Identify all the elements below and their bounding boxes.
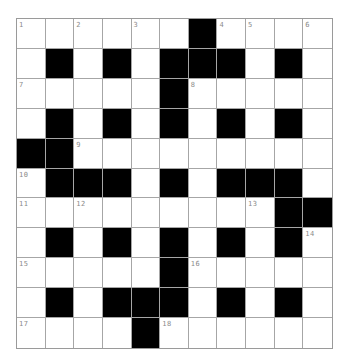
answer-cell[interactable] [103, 139, 132, 169]
answer-cell[interactable]: 2 [74, 19, 103, 49]
black-square [160, 169, 189, 199]
answer-cell[interactable] [103, 258, 132, 288]
answer-cell[interactable] [103, 19, 132, 49]
answer-cell[interactable] [246, 79, 275, 109]
answer-cell[interactable]: 7 [17, 79, 46, 109]
answer-cell[interactable]: 8 [189, 79, 218, 109]
answer-cell[interactable] [132, 139, 161, 169]
answer-cell[interactable] [246, 288, 275, 318]
answer-cell[interactable] [303, 109, 332, 139]
answer-cell[interactable] [46, 19, 75, 49]
answer-cell[interactable] [246, 139, 275, 169]
answer-cell[interactable] [132, 258, 161, 288]
answer-cell[interactable] [189, 139, 218, 169]
clue-number: 12 [76, 201, 85, 208]
answer-cell[interactable]: 14 [303, 228, 332, 258]
answer-cell[interactable] [217, 318, 246, 348]
answer-cell[interactable] [17, 109, 46, 139]
answer-cell[interactable] [275, 318, 304, 348]
answer-cell[interactable] [103, 198, 132, 228]
answer-cell[interactable] [275, 79, 304, 109]
answer-cell[interactable] [217, 79, 246, 109]
answer-cell[interactable] [246, 49, 275, 79]
answer-cell[interactable] [132, 109, 161, 139]
answer-cell[interactable] [17, 288, 46, 318]
black-square [132, 318, 161, 348]
answer-cell[interactable] [103, 79, 132, 109]
black-square [46, 169, 75, 199]
clue-number: 14 [305, 231, 314, 238]
answer-cell[interactable] [74, 79, 103, 109]
answer-cell[interactable] [189, 228, 218, 258]
answer-cell[interactable]: 16 [189, 258, 218, 288]
answer-cell[interactable] [132, 169, 161, 199]
answer-cell[interactable] [132, 228, 161, 258]
answer-cell[interactable]: 12 [74, 198, 103, 228]
answer-cell[interactable] [275, 139, 304, 169]
answer-cell[interactable] [132, 49, 161, 79]
answer-cell[interactable]: 4 [217, 19, 246, 49]
answer-cell[interactable] [217, 198, 246, 228]
answer-cell[interactable]: 11 [17, 198, 46, 228]
answer-cell[interactable] [246, 318, 275, 348]
answer-cell[interactable] [17, 228, 46, 258]
black-square [217, 288, 246, 318]
answer-cell[interactable] [74, 288, 103, 318]
answer-cell[interactable] [189, 169, 218, 199]
answer-cell[interactable] [303, 318, 332, 348]
answer-cell[interactable] [303, 79, 332, 109]
answer-cell[interactable] [246, 228, 275, 258]
answer-cell[interactable] [303, 139, 332, 169]
answer-cell[interactable] [46, 318, 75, 348]
answer-cell[interactable] [189, 198, 218, 228]
answer-cell[interactable] [17, 49, 46, 79]
answer-cell[interactable] [74, 109, 103, 139]
clue-number: 3 [134, 22, 139, 29]
clue-number: 6 [305, 22, 310, 29]
answer-cell[interactable] [303, 288, 332, 318]
answer-cell[interactable]: 5 [246, 19, 275, 49]
answer-cell[interactable] [74, 258, 103, 288]
answer-cell[interactable]: 9 [74, 139, 103, 169]
answer-cell[interactable]: 10 [17, 169, 46, 199]
answer-cell[interactable] [46, 198, 75, 228]
crossword-page: 123456789101112131415161718 [0, 0, 348, 364]
answer-cell[interactable]: 13 [246, 198, 275, 228]
answer-cell[interactable] [160, 19, 189, 49]
answer-cell[interactable]: 17 [17, 318, 46, 348]
answer-cell[interactable] [303, 169, 332, 199]
answer-cell[interactable] [275, 258, 304, 288]
black-square [46, 139, 75, 169]
answer-cell[interactable] [103, 318, 132, 348]
black-square [217, 228, 246, 258]
answer-cell[interactable]: 3 [132, 19, 161, 49]
answer-cell[interactable] [74, 228, 103, 258]
answer-cell[interactable] [46, 79, 75, 109]
answer-cell[interactable] [217, 258, 246, 288]
answer-cell[interactable] [246, 258, 275, 288]
answer-cell[interactable] [189, 288, 218, 318]
answer-cell[interactable] [217, 139, 246, 169]
answer-cell[interactable] [275, 19, 304, 49]
answer-cell[interactable] [303, 258, 332, 288]
black-square [160, 258, 189, 288]
answer-cell[interactable]: 15 [17, 258, 46, 288]
black-square [246, 169, 275, 199]
answer-cell[interactable] [303, 49, 332, 79]
answer-cell[interactable] [46, 258, 75, 288]
answer-cell[interactable]: 1 [17, 19, 46, 49]
black-square [275, 169, 304, 199]
answer-cell[interactable] [189, 109, 218, 139]
answer-cell[interactable] [189, 318, 218, 348]
answer-cell[interactable] [74, 318, 103, 348]
answer-cell[interactable] [160, 198, 189, 228]
black-square [303, 198, 332, 228]
answer-cell[interactable] [132, 198, 161, 228]
answer-cell[interactable] [132, 79, 161, 109]
answer-cell[interactable] [74, 49, 103, 79]
answer-cell[interactable] [160, 139, 189, 169]
answer-cell[interactable] [246, 109, 275, 139]
black-square [275, 198, 304, 228]
answer-cell[interactable]: 18 [160, 318, 189, 348]
answer-cell[interactable]: 6 [303, 19, 332, 49]
